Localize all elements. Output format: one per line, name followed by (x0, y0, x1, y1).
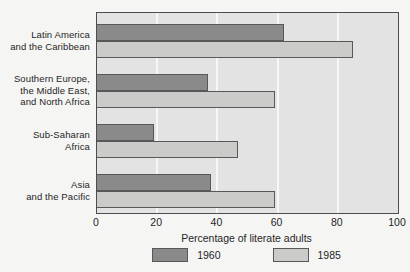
category-label-0: Latin Americaand the Caribbean (0, 29, 90, 52)
category-label-2: Sub-SaharanAfrica (0, 129, 90, 152)
plot-area (96, 12, 399, 214)
category-label-line: Africa (0, 140, 90, 152)
bar-1985-category-3 (97, 191, 275, 208)
category-label-3: Asiaand the Pacific (0, 179, 90, 202)
bar-1960-category-3 (97, 174, 211, 191)
x-tick-0: 0 (93, 216, 99, 228)
bar-1985-category-0 (97, 41, 353, 58)
x-tick-40: 40 (211, 216, 223, 228)
x-axis-title: Percentage of literate adults (96, 232, 397, 244)
legend: 19601985 (96, 248, 397, 262)
x-tick-80: 80 (331, 216, 343, 228)
bar-1985-category-1 (97, 91, 275, 108)
legend-item-1960: 1960 (152, 248, 220, 262)
literacy-bar-chart: Latin Americaand the CaribbeanSouthern E… (0, 0, 410, 272)
bar-1960-category-2 (97, 124, 154, 141)
legend-label-1985: 1985 (318, 249, 341, 261)
category-label-line: and North Africa (0, 96, 90, 108)
category-label-line: and the Caribbean (0, 40, 90, 52)
legend-swatch-1985 (273, 248, 309, 262)
legend-item-1985: 1985 (273, 248, 341, 262)
x-tick-100: 100 (388, 216, 406, 228)
category-label-line: and the Pacific (0, 190, 90, 202)
category-label-line: Asia (0, 179, 90, 191)
x-tick-20: 20 (150, 216, 162, 228)
category-label-1: Southern Europe,the Middle East,and Nort… (0, 73, 90, 108)
legend-swatch-1960 (152, 248, 188, 262)
category-label-line: Sub-Saharan (0, 129, 90, 141)
bar-1985-category-2 (97, 141, 238, 158)
legend-label-1960: 1960 (197, 249, 220, 261)
category-label-line: Southern Europe, (0, 73, 90, 85)
x-tick-60: 60 (271, 216, 283, 228)
category-label-line: Latin America (0, 29, 90, 41)
category-label-line: the Middle East, (0, 84, 90, 96)
bar-1960-category-1 (97, 74, 208, 91)
bar-1960-category-0 (97, 24, 284, 41)
